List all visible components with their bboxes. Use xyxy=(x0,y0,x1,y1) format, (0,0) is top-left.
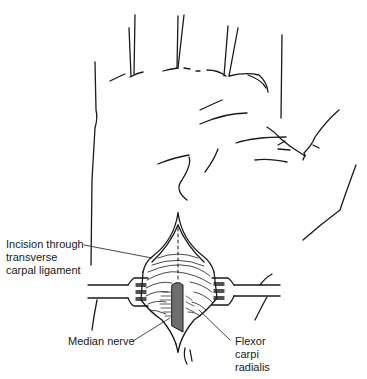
thumb-outline xyxy=(255,110,356,240)
hand-left-edge xyxy=(91,62,97,265)
palm-creases xyxy=(158,100,286,200)
flexor-carpi-radialis-label: Flexor carpi radialis xyxy=(235,335,270,374)
incision-label: Incision through transverse carpal ligam… xyxy=(6,238,84,277)
retractor-left xyxy=(128,278,148,306)
hand-incision-illustration xyxy=(0,0,367,379)
finger-lines xyxy=(129,15,282,118)
leader-lines xyxy=(84,245,230,341)
median-nerve-label: Median nerve xyxy=(68,335,135,348)
median-nerve-shape xyxy=(172,283,183,333)
